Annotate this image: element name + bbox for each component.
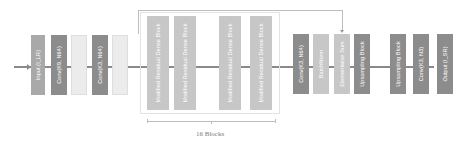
skip-arrow-icon	[340, 30, 344, 33]
conv-k3-n3-label: Conv(K3, N3)	[418, 47, 424, 82]
skip-connection-left	[138, 10, 139, 34]
skip-connection-top	[138, 10, 343, 11]
mrdb-block-1: Modified Residual Dense Block	[147, 16, 169, 110]
upsampling-label-2: Upsampling Block	[395, 41, 401, 87]
input-label: Input (I_LR)	[35, 50, 41, 80]
mrdb-block-4: Modified Residual Dense Block	[250, 16, 272, 110]
mrdb-label-2: Modified Residual Dense Block	[182, 23, 188, 102]
upsampling-block-2: Upsampling Block	[390, 34, 406, 94]
mrdb-block-3: Modified Residual Dense Block	[219, 16, 241, 110]
skip-connection-right	[342, 10, 343, 32]
pale-block-2	[112, 35, 128, 95]
upsampling-label-1: Upsampling Block	[359, 41, 365, 87]
group-caption: 16 Blocks	[196, 130, 224, 138]
conv-k3-block-1: Conv(K3, N64)	[92, 35, 108, 95]
conv-k3-label-2: Conv(K3, N64)	[298, 45, 304, 83]
pale-block-1	[71, 35, 87, 95]
mrdb-block-2: Modified Residual Dense Block	[174, 16, 196, 110]
group-brace-center	[211, 121, 212, 124]
input-block: Input (I_LR)	[31, 35, 45, 95]
group-brace-left	[147, 119, 148, 123]
conv-k9-label: Conv(K9, N64)	[56, 46, 62, 84]
elementwise-sum-label: Elementwise Sum	[339, 41, 345, 87]
mrdb-label-4: Modified Residual Dense Block	[258, 23, 264, 102]
batchnorm-block: BatchNorm	[313, 34, 329, 94]
output-label: Output (I_SR)	[442, 46, 448, 81]
mrdb-label-3: Modified Residual Dense Block	[227, 23, 233, 102]
conv-k3-n3-block: Conv(K3, N3)	[413, 34, 429, 94]
elementwise-sum-block: Elementwise Sum	[334, 34, 350, 94]
group-brace-right	[275, 119, 276, 123]
conv-k3-block-2: Conv(K3, N64)	[293, 34, 309, 94]
mrdb-label-1: Modified Residual Dense Block	[155, 23, 161, 102]
output-block: Output (I_SR)	[437, 34, 453, 94]
upsampling-block-1: Upsampling Block	[354, 34, 370, 94]
conv-k3-label-1: Conv(K3, N64)	[97, 46, 103, 84]
conv-k9-block: Conv(K9, N64)	[51, 35, 67, 95]
batchnorm-label: BatchNorm	[318, 50, 324, 78]
